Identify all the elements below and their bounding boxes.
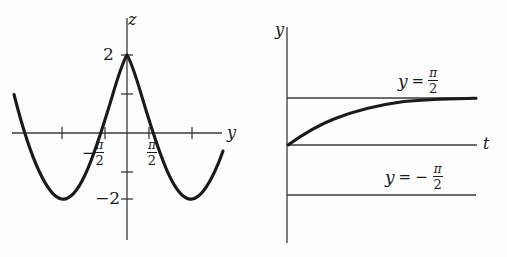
right-axis-label-y: y bbox=[275, 22, 284, 38]
left-tick-label-2: 2 bbox=[103, 46, 114, 63]
left-tick-label-pi-over-2: π2 bbox=[147, 140, 157, 168]
minus-sign: − bbox=[82, 146, 95, 161]
equation-variable: y bbox=[398, 73, 408, 90]
right-plot-svg bbox=[254, 0, 507, 257]
fraction-numerator: π bbox=[428, 67, 438, 80]
fraction-denominator: 2 bbox=[433, 178, 443, 192]
fraction-pi-over-2: π2 bbox=[147, 139, 157, 167]
figure-container: z y 2 −2 −π2 π2 y bbox=[0, 0, 507, 257]
equals-sign: = bbox=[399, 170, 412, 185]
left-axis-label-z: z bbox=[128, 12, 136, 28]
left-tick-label-minus-pi-over-2: −π2 bbox=[82, 140, 104, 168]
minus-sign: − bbox=[415, 170, 428, 185]
fraction-denominator: 2 bbox=[147, 154, 157, 168]
left-tick-label-minus-2: −2 bbox=[95, 190, 120, 207]
fraction-pi-over-2: π2 bbox=[433, 163, 443, 191]
fraction-numerator: π bbox=[95, 139, 105, 152]
right-curve-arctan bbox=[288, 98, 476, 145]
right-plot-panel: y t y=π2 y=−π2 bbox=[254, 0, 507, 257]
fraction-numerator: π bbox=[147, 139, 157, 152]
left-axis-label-y: y bbox=[227, 125, 236, 141]
equals-sign: = bbox=[412, 74, 425, 89]
left-plot-panel: z y 2 −2 −π2 π2 bbox=[0, 0, 254, 257]
right-axis-label-t: t bbox=[483, 136, 489, 152]
fraction-pi-over-2: π2 bbox=[95, 139, 105, 167]
equation-variable: y bbox=[385, 169, 395, 186]
fraction-numerator: π bbox=[433, 163, 443, 176]
fraction-denominator: 2 bbox=[428, 82, 438, 96]
right-asymptote-label-upper: y=π2 bbox=[398, 68, 438, 96]
left-plot-svg bbox=[0, 0, 254, 257]
fraction-denominator: 2 bbox=[95, 154, 105, 168]
right-asymptote-label-lower: y=−π2 bbox=[385, 164, 443, 192]
fraction-pi-over-2: π2 bbox=[428, 67, 438, 95]
